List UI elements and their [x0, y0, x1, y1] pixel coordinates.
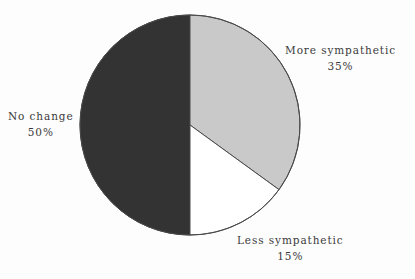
pie-label-no-change-name: No change — [8, 108, 74, 124]
pie-label-less-sympathetic-name: Less sympathetic — [237, 232, 344, 248]
pie-label-no-change: No change 50% — [8, 108, 74, 141]
pie-label-more-sympathetic: More sympathetic 35% — [285, 42, 396, 75]
pie-label-no-change-value: 50% — [8, 124, 74, 140]
pie-slice-no-change[interactable] — [80, 15, 190, 235]
pie-label-less-sympathetic: Less sympathetic 15% — [237, 232, 344, 265]
pie-label-less-sympathetic-value: 15% — [237, 248, 344, 264]
pie-chart: More sympathetic 35% No change 50% Less … — [0, 0, 415, 279]
pie-label-more-sympathetic-value: 35% — [285, 58, 396, 74]
pie-label-more-sympathetic-name: More sympathetic — [285, 42, 396, 58]
